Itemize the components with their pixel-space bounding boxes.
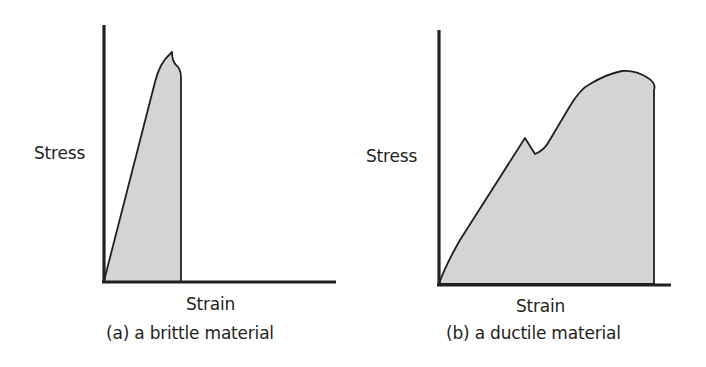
stress-strain-diagrams	[0, 0, 706, 367]
xlabel-a: Strain	[186, 294, 235, 314]
ylabel-a: Stress	[34, 143, 85, 163]
panel-b-ductile	[437, 30, 671, 286]
caption-a: (a) a brittle material	[106, 323, 274, 343]
brittle-curve-area	[104, 52, 181, 282]
caption-b: (b) a ductile material	[446, 323, 621, 343]
panel-a-brittle	[102, 25, 336, 283]
ductile-curve-area	[440, 71, 655, 284]
xlabel-b: Strain	[516, 296, 565, 316]
stress-strain-figure: Stress Strain (a) a brittle material Str…	[0, 0, 706, 367]
ylabel-b: Stress	[366, 146, 417, 166]
